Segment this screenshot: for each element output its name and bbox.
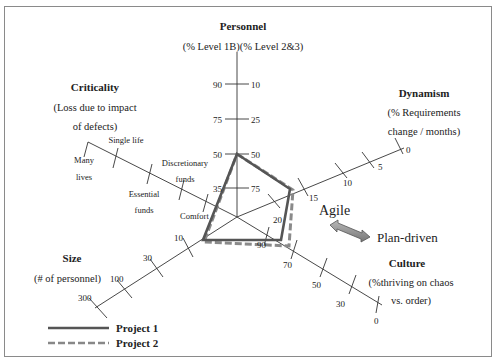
svg-text:Discretionary: Discretionary <box>162 158 209 168</box>
svg-text:0: 0 <box>406 145 411 155</box>
svg-text:10: 10 <box>251 80 261 90</box>
svg-text:change / months): change / months) <box>388 126 461 138</box>
criticality-title: Criticality <box>71 81 120 93</box>
svg-text:(# of personnel): (# of personnel) <box>34 273 102 285</box>
svg-text:15: 15 <box>309 193 319 203</box>
svg-text:30: 30 <box>143 253 153 263</box>
svg-text:5: 5 <box>378 162 383 172</box>
svg-text:100: 100 <box>110 274 124 284</box>
size-title: Size <box>63 252 82 264</box>
plan-driven-label: Plan-driven <box>377 230 438 245</box>
svg-text:25: 25 <box>251 115 261 125</box>
culture-title: Culture <box>389 257 426 269</box>
svg-text:70: 70 <box>283 260 293 270</box>
svg-text:funds: funds <box>176 174 195 184</box>
svg-text:vs. order): vs. order) <box>391 295 432 307</box>
svg-text:30: 30 <box>336 299 346 309</box>
svg-text:50: 50 <box>312 280 322 290</box>
svg-text:(%thriving on chaos: (%thriving on chaos <box>368 277 453 289</box>
svg-text:Many: Many <box>74 155 95 165</box>
svg-text:35: 35 <box>213 184 223 194</box>
legend-project-1: Project 1 <box>116 322 158 334</box>
svg-text:of defects): of defects) <box>73 121 118 133</box>
svg-text:75: 75 <box>251 184 261 194</box>
svg-text:(Loss due to impact: (Loss due to impact <box>53 102 136 114</box>
svg-text:90: 90 <box>213 80 223 90</box>
svg-text:(% Requirements: (% Requirements <box>387 107 460 119</box>
axes <box>84 52 404 318</box>
personnel-title: Personnel <box>220 20 266 32</box>
agile-label: Agile <box>319 203 350 218</box>
legend-project-2: Project 2 <box>116 337 159 349</box>
svg-text:funds: funds <box>135 205 154 215</box>
double-arrow-icon <box>330 220 370 242</box>
svg-text:300: 300 <box>78 293 92 303</box>
svg-text:0: 0 <box>374 316 379 326</box>
svg-text:90: 90 <box>257 240 267 250</box>
legend: Project 1 Project 2 <box>48 322 159 349</box>
size-axis <box>95 217 237 308</box>
dynamism-title: Dynamism <box>399 87 450 99</box>
svg-text:75: 75 <box>213 115 223 125</box>
svg-text:20: 20 <box>273 215 283 225</box>
svg-text:10: 10 <box>343 178 353 188</box>
project-2-polygon <box>204 154 293 246</box>
personnel-subtitle: (% Level 1B)(% Level 2&3) <box>183 41 304 53</box>
svg-text:lives: lives <box>76 172 92 182</box>
svg-text:50: 50 <box>213 150 223 160</box>
svg-text:Comfort: Comfort <box>180 211 209 221</box>
polar-diagram: Personnel (% Level 1B)(% Level 2&3) 90 7… <box>0 0 496 363</box>
project-1-polygon <box>203 154 290 240</box>
svg-text:Single life: Single life <box>108 135 143 145</box>
svg-text:10: 10 <box>174 233 184 243</box>
svg-text:50: 50 <box>251 150 261 160</box>
culture-axis <box>237 217 382 305</box>
svg-text:Essential: Essential <box>129 189 160 199</box>
